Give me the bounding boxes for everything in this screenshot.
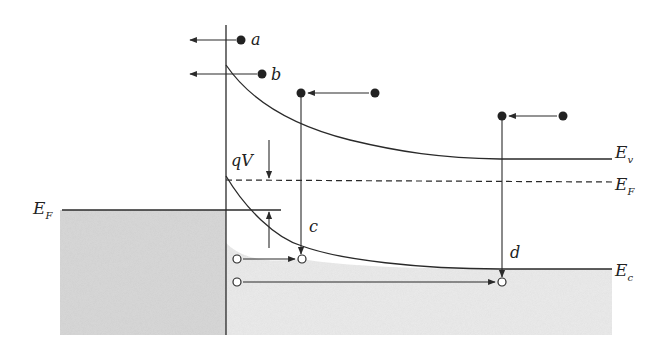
process-d-hole-target	[498, 278, 506, 286]
metal-region	[60, 210, 226, 335]
label-b: b	[271, 65, 281, 84]
label-c: c	[309, 217, 318, 236]
label-semiconductor-fermi: EF	[614, 174, 635, 197]
band-diagram: a b c d qV EF Ev EF Ec	[0, 0, 646, 353]
process-c-electron-source	[371, 89, 380, 98]
process-a-electron	[237, 36, 246, 45]
semiconductor-fermi-line	[226, 180, 612, 182]
process-b-electron	[258, 70, 267, 79]
semiconductor-region	[226, 243, 612, 335]
label-d: d	[510, 243, 520, 262]
label-metal-fermi: EF	[32, 198, 53, 221]
process-d-hole-source	[233, 278, 241, 286]
valence-band-curve	[226, 65, 612, 159]
process-d-electron-source	[559, 112, 568, 121]
label-a: a	[251, 30, 261, 49]
conduction-band-curve	[226, 176, 612, 269]
process-c-electron-target	[297, 89, 306, 98]
process-c-hole-target	[298, 255, 306, 263]
process-c-hole-source	[233, 255, 241, 263]
label-valence-band: Ev	[614, 142, 633, 165]
label-conduction-band: Ec	[614, 260, 633, 283]
process-d-electron-target	[498, 112, 507, 121]
label-qv: qV	[231, 151, 254, 170]
